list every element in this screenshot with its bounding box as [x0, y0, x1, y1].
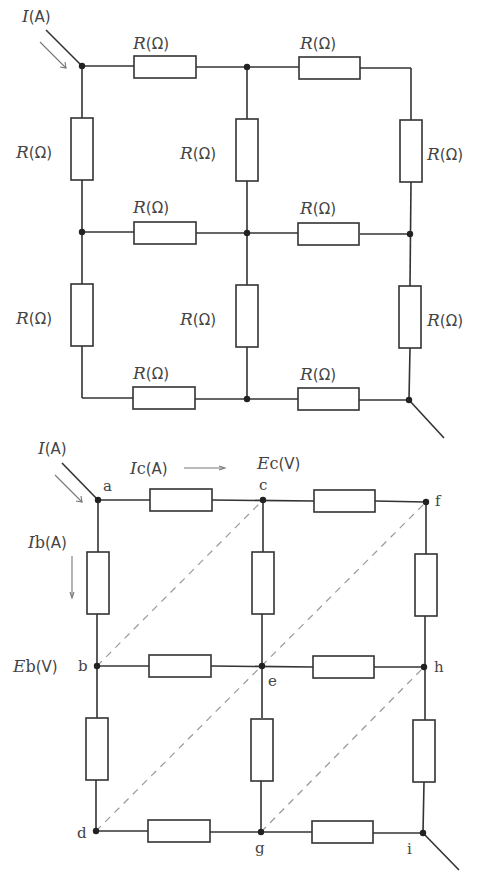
resistor — [71, 284, 93, 346]
svg-text:R(Ω): R(Ω) — [426, 310, 463, 330]
svg-text:R(Ω): R(Ω) — [299, 364, 336, 384]
node-label-e: e — [268, 672, 277, 690]
output-lead — [409, 400, 444, 438]
ic-label: Ic(A) — [129, 458, 168, 478]
eb-label: Eb(V) — [12, 656, 58, 676]
svg-text:R(Ω): R(Ω) — [299, 33, 336, 53]
resistor-ac — [150, 489, 212, 511]
node-c — [260, 497, 266, 503]
ib-label: Ib(A) — [27, 532, 67, 552]
equipotential-line-bc — [97, 500, 263, 666]
current-label: I(A) — [21, 6, 51, 26]
resistor-eg — [251, 719, 273, 781]
output-lead — [423, 833, 459, 870]
node-label-d: d — [77, 824, 87, 842]
resistor-eh — [313, 656, 374, 678]
svg-text:R(Ω): R(Ω) — [132, 197, 169, 217]
circuit-diagram: I(A) — [0, 0, 479, 880]
node-label-f: f — [435, 492, 442, 510]
node-f — [423, 499, 429, 505]
resistor — [399, 286, 421, 348]
svg-text:R(Ω): R(Ω) — [179, 143, 216, 163]
node-b — [94, 663, 100, 669]
bottom-circuit: I(A) Ic(A) Ec(V) Ib(A) Eb(V) — [12, 438, 459, 870]
svg-text:R(Ω): R(Ω) — [15, 142, 52, 162]
equipotential-line-gh — [261, 667, 424, 832]
ec-label: Ec(V) — [256, 453, 300, 473]
svg-text:R(Ω): R(Ω) — [299, 198, 336, 218]
resistor — [71, 118, 93, 180]
top-circuit: I(A) — [15, 6, 463, 438]
node-label-i: i — [407, 840, 412, 858]
resistor-be — [149, 655, 211, 677]
node-i — [420, 830, 426, 836]
resistor — [134, 222, 196, 244]
node-label-h: h — [434, 658, 444, 676]
node-label-b: b — [78, 657, 88, 675]
resistor — [134, 56, 196, 78]
resistor-gi — [312, 821, 373, 843]
node-d — [93, 828, 99, 834]
resistor — [299, 57, 360, 79]
input-lead — [62, 463, 98, 500]
node-label-g: g — [255, 839, 265, 857]
node-e — [259, 663, 265, 669]
resistor — [133, 387, 195, 409]
node-h — [421, 664, 427, 670]
resistor-bd — [86, 718, 108, 780]
svg-text:R(Ω): R(Ω) — [132, 363, 169, 383]
resistor — [298, 388, 359, 410]
node-label-a: a — [103, 477, 112, 495]
resistor — [236, 285, 258, 347]
resistor-fh — [415, 554, 437, 616]
svg-text:R(Ω): R(Ω) — [15, 308, 52, 328]
node-g — [258, 829, 264, 835]
resistor — [400, 120, 422, 182]
resistor-dg — [148, 820, 210, 842]
svg-text:R(Ω): R(Ω) — [426, 144, 463, 164]
resistor-ce — [252, 552, 274, 614]
node-label-c: c — [259, 476, 267, 494]
resistor — [298, 223, 359, 245]
input-lead — [46, 30, 82, 66]
svg-text:R(Ω): R(Ω) — [179, 309, 216, 329]
svg-text:R(Ω): R(Ω) — [132, 33, 169, 53]
resistor — [236, 119, 258, 181]
resistor-cf — [314, 490, 375, 512]
resistor-hi — [413, 720, 435, 782]
node-a — [95, 497, 101, 503]
resistor-ab — [87, 552, 109, 614]
current-label: I(A) — [37, 438, 67, 458]
